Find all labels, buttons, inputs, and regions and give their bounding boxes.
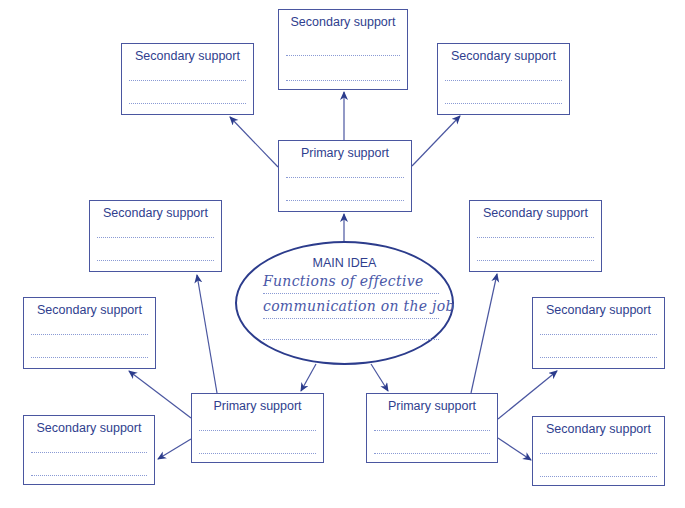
- box-label: Secondary support: [533, 422, 664, 437]
- main-idea-text-line-2[interactable]: communication on the job: [263, 297, 438, 315]
- writing-line[interactable]: [31, 475, 147, 476]
- main-idea-ellipse[interactable]: MAIN IDEA Functions of effective communi…: [235, 241, 454, 365]
- arrow-primary-top-to-top-right: [412, 116, 460, 166]
- writing-line[interactable]: [445, 80, 562, 81]
- writing-line[interactable]: [445, 103, 562, 104]
- secondary-support-left-middle[interactable]: Secondary support: [23, 297, 156, 369]
- box-label: Secondary support: [122, 49, 253, 64]
- writing-line[interactable]: [374, 453, 490, 454]
- writing-line[interactable]: [477, 260, 594, 261]
- arrow-primary-br-to-right-lower: [498, 438, 531, 460]
- writing-line[interactable]: [540, 453, 657, 454]
- secondary-support-top-right[interactable]: Secondary support: [437, 43, 570, 115]
- arrow-main-to-primary-bottom-right: [371, 364, 388, 391]
- secondary-support-right-upper[interactable]: Secondary support: [469, 200, 602, 272]
- arrow-primary-bl-to-left-upper: [197, 275, 217, 393]
- main-idea-text-line-1[interactable]: Functions of effective: [263, 272, 438, 290]
- box-label: Primary support: [279, 146, 411, 161]
- arrow-primary-br-to-right-middle: [498, 371, 557, 419]
- box-label: Primary support: [367, 399, 497, 414]
- secondary-support-top-center[interactable]: Secondary support: [278, 9, 408, 90]
- writing-line[interactable]: [540, 357, 657, 358]
- primary-support-top[interactable]: Primary support: [278, 140, 412, 212]
- writing-line[interactable]: [286, 200, 404, 201]
- arrow-primary-top-to-top-left: [230, 117, 278, 167]
- writing-line[interactable]: [263, 339, 439, 340]
- arrow-primary-bl-to-left-middle: [129, 371, 191, 418]
- box-label: Secondary support: [438, 49, 569, 64]
- writing-line[interactable]: [31, 334, 148, 335]
- writing-line[interactable]: [540, 476, 657, 477]
- writing-line[interactable]: [129, 80, 246, 81]
- secondary-support-left-lower[interactable]: Secondary support: [23, 415, 155, 485]
- box-label: Primary support: [192, 399, 323, 414]
- arrow-primary-br-to-right-upper: [471, 274, 497, 393]
- writing-line[interactable]: [129, 103, 246, 104]
- secondary-support-right-lower[interactable]: Secondary support: [532, 416, 665, 486]
- writing-line[interactable]: [31, 357, 148, 358]
- main-idea-heading: MAIN IDEA: [237, 256, 452, 271]
- arrow-main-to-primary-bottom-left: [301, 364, 316, 391]
- box-label: Secondary support: [470, 206, 601, 221]
- writing-line[interactable]: [286, 80, 400, 81]
- box-label: Secondary support: [279, 15, 407, 30]
- secondary-support-right-middle[interactable]: Secondary support: [532, 297, 665, 369]
- writing-line[interactable]: [97, 260, 214, 261]
- secondary-support-left-upper[interactable]: Secondary support: [89, 200, 222, 272]
- writing-line[interactable]: [31, 452, 147, 453]
- writing-line: [263, 318, 439, 319]
- secondary-support-top-left[interactable]: Secondary support: [121, 43, 254, 115]
- box-label: Secondary support: [24, 303, 155, 318]
- primary-support-bottom-left[interactable]: Primary support: [191, 393, 324, 463]
- writing-line[interactable]: [286, 55, 400, 56]
- box-label: Secondary support: [24, 421, 154, 436]
- writing-line[interactable]: [374, 430, 490, 431]
- writing-line: [263, 293, 439, 294]
- writing-line[interactable]: [286, 177, 404, 178]
- writing-line[interactable]: [540, 334, 657, 335]
- writing-line[interactable]: [199, 430, 316, 431]
- box-label: Secondary support: [533, 303, 664, 318]
- primary-support-bottom-right[interactable]: Primary support: [366, 393, 498, 463]
- writing-line[interactable]: [199, 453, 316, 454]
- spider-map-diagram: Secondary support Secondary support Seco…: [0, 0, 685, 508]
- writing-line[interactable]: [477, 237, 594, 238]
- box-label: Secondary support: [90, 206, 221, 221]
- writing-line[interactable]: [97, 237, 214, 238]
- arrow-primary-bl-to-left-lower: [158, 439, 191, 459]
